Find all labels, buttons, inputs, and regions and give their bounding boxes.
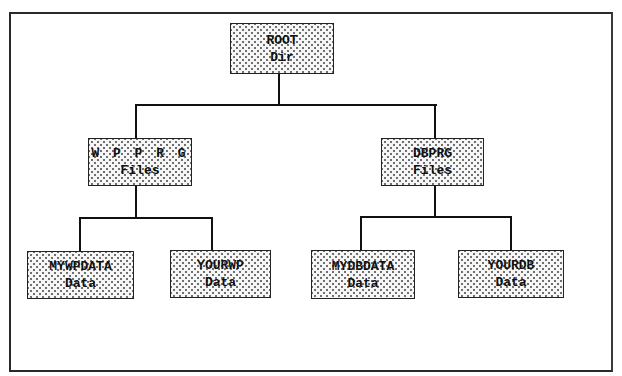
- connector-wpprg-drop: [135, 104, 137, 139]
- connector-dbprg-stem: [434, 185, 436, 217]
- connector-mydbdata-drop: [360, 216, 362, 251]
- node-title: DBPRG: [413, 145, 452, 162]
- node-yourwp: YOURWP Data: [170, 250, 271, 298]
- node-mydbdata: MYDBDATA Data: [311, 250, 415, 299]
- node-subtitle: Files: [413, 162, 452, 179]
- node-root-dir: ROOT Dir: [230, 23, 334, 74]
- node-title: MYWPDATA: [49, 258, 111, 275]
- node-subtitle: Data: [495, 274, 526, 291]
- connector-wpprg-stem: [135, 185, 137, 218]
- connector-yourdb-drop: [510, 216, 512, 251]
- node-subtitle: Data: [65, 275, 96, 292]
- connector-dbprg-drop: [434, 104, 436, 139]
- connector-wpprg-horizontal: [79, 217, 213, 219]
- connector-yourwp-drop: [211, 217, 213, 251]
- node-title: ROOT: [266, 32, 297, 49]
- node-dbprg-files: DBPRG Files: [381, 138, 484, 186]
- connector-root-stem: [278, 73, 280, 106]
- node-subtitle: Data: [347, 275, 378, 292]
- node-subtitle: Files: [120, 162, 159, 179]
- node-title: YOURWP: [197, 257, 244, 274]
- connector-dbprg-horizontal: [360, 216, 512, 218]
- node-mywpdata: MYWPDATA Data: [27, 251, 134, 299]
- node-yourdb: YOURDB Data: [458, 250, 564, 298]
- node-subtitle: Dir: [270, 49, 293, 66]
- node-title: W P P R G: [91, 145, 188, 162]
- node-title: YOURDB: [488, 257, 535, 274]
- node-title: MYDBDATA: [332, 258, 394, 275]
- connector-mywpdata-drop: [79, 217, 81, 251]
- node-wpprg-files: W P P R G Files: [88, 138, 192, 186]
- node-subtitle: Data: [205, 274, 236, 291]
- connector-level2-horizontal: [135, 104, 437, 106]
